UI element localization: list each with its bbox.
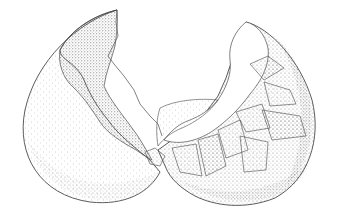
left-shell-half [23, 10, 165, 203]
eggshell-illustration [0, 0, 337, 218]
eggshell-drawing [0, 0, 337, 218]
right-shell-half [157, 22, 315, 205]
